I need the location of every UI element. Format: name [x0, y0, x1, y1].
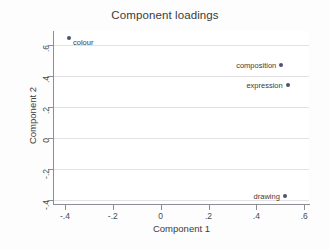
data-point-marker [283, 194, 287, 198]
y-tick-label: 0 [41, 138, 51, 162]
x-tick-label: .4 [241, 211, 271, 221]
gridline [53, 138, 309, 139]
x-tick-mark [65, 205, 66, 210]
y-tick-label: .2 [41, 107, 51, 131]
data-point-label: composition [236, 62, 276, 70]
x-tick-label: 0 [146, 211, 176, 221]
gridline [53, 169, 309, 170]
x-tick-mark [304, 205, 305, 210]
data-point-label: expression [246, 82, 282, 90]
chart-figure: Component loadings colourcompositionexpr… [0, 0, 330, 250]
data-point-label: colour [73, 39, 93, 47]
x-tick-label: .6 [289, 211, 319, 221]
x-tick-mark [113, 205, 114, 210]
data-point-marker [67, 36, 71, 40]
x-tick-mark [256, 205, 257, 210]
y-axis-line [53, 31, 54, 205]
y-tick-label: .6 [41, 45, 51, 69]
x-tick-mark [209, 205, 210, 210]
data-point-marker [286, 83, 290, 87]
x-tick-label: -.2 [98, 211, 128, 221]
plot-area: colourcompositionexpressiondrawing [53, 31, 309, 203]
x-axis-title: Component 1 [53, 223, 310, 234]
gridlines [53, 31, 309, 203]
data-point-label: drawing [254, 193, 280, 201]
chart-title: Component loadings [0, 9, 330, 21]
y-tick-label: -.2 [41, 169, 51, 193]
y-axis-title: Component 2 [27, 31, 38, 201]
y-tick-label: .4 [41, 76, 51, 100]
x-axis-line [53, 204, 310, 205]
x-tick-mark [161, 205, 162, 210]
x-tick-label: .2 [194, 211, 224, 221]
gridline [53, 76, 309, 77]
x-tick-label: -.4 [50, 211, 80, 221]
gridline [53, 107, 309, 108]
